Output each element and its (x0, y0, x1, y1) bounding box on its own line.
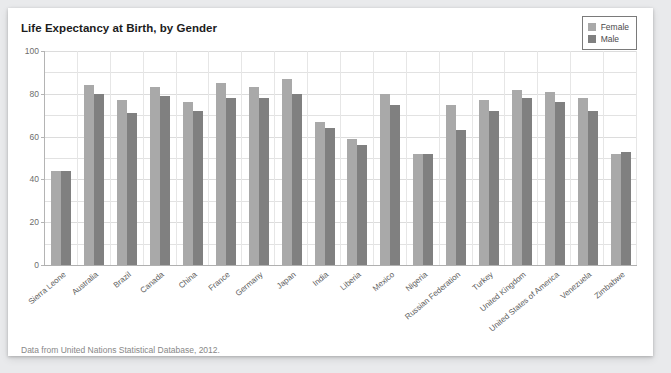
x-axis-label-cell: Mexico (374, 267, 407, 347)
legend-swatch-icon (588, 23, 596, 31)
bar-male[interactable] (127, 113, 137, 265)
x-axis-label-cell: India (308, 267, 341, 347)
y-axis-tick-mark (41, 265, 44, 266)
bar-male[interactable] (588, 111, 598, 265)
bar-male[interactable] (325, 128, 335, 265)
bar-female[interactable] (479, 100, 489, 265)
bar-group (177, 51, 210, 265)
bar-male[interactable] (226, 98, 236, 265)
legend-swatch-icon (588, 35, 596, 43)
bar-group (604, 51, 637, 265)
bar-female[interactable] (282, 79, 292, 265)
y-axis-tick-mark (41, 179, 44, 180)
x-axis-tick-label: India (311, 270, 330, 288)
bar-female[interactable] (380, 94, 390, 265)
bar-male[interactable] (522, 98, 532, 265)
y-axis-tick-label: 0 (13, 260, 39, 270)
bar-group (144, 51, 177, 265)
bar-male[interactable] (489, 111, 499, 265)
bar-male[interactable] (456, 130, 466, 265)
x-axis-label-cell: Venezuela (571, 267, 604, 347)
bar-male[interactable] (259, 98, 269, 265)
x-axis-tick-label: Nigeria (404, 270, 429, 293)
y-axis-tick-mark (41, 51, 44, 52)
bar-female[interactable] (347, 139, 357, 265)
legend-item[interactable]: Female (588, 21, 629, 33)
x-axis-label-cell: Brazil (111, 267, 144, 347)
chart-card: Life Expectancy at Birth, by Gender 1008… (8, 8, 653, 356)
y-axis-tick-mark (41, 94, 44, 95)
x-axis-label-cell: Canada (144, 267, 177, 347)
bar-male[interactable] (94, 94, 104, 265)
y-axis-tick-label: 80 (13, 89, 39, 99)
bar-female[interactable] (611, 154, 621, 265)
bar-female[interactable] (150, 87, 160, 265)
legend-label: Male (601, 34, 619, 44)
bar-female[interactable] (578, 98, 588, 265)
x-axis-tick-label: Brazil (112, 270, 133, 290)
chart-legend: FemaleMale (582, 16, 637, 50)
bar-male[interactable] (555, 102, 565, 265)
y-axis-labels: 100806040200 (8, 51, 39, 266)
bar-group (341, 51, 374, 265)
bar-group (538, 51, 571, 265)
bar-group (78, 51, 111, 265)
bar-series-container (45, 51, 637, 265)
bar-male[interactable] (621, 152, 631, 265)
bar-group (111, 51, 144, 265)
x-axis-label-cell: Zimbabwe (604, 267, 637, 347)
legend-label: Female (601, 22, 629, 32)
bar-male[interactable] (61, 171, 71, 265)
bar-group (209, 51, 242, 265)
x-axis-label-cell: Japan (275, 267, 308, 347)
x-axis-label-cell: Sierra Leone (45, 267, 78, 347)
bar-male[interactable] (390, 105, 400, 266)
bar-female[interactable] (249, 87, 259, 265)
bar-group (242, 51, 275, 265)
y-axis-tick-label: 40 (13, 174, 39, 184)
bar-female[interactable] (413, 154, 423, 265)
y-axis-tick-label: 100 (13, 46, 39, 56)
x-axis-label-cell: United States of America (538, 267, 571, 347)
bar-female[interactable] (512, 90, 522, 265)
bar-group (407, 51, 440, 265)
bar-group (374, 51, 407, 265)
x-axis-label-cell: France (209, 267, 242, 347)
x-axis-tick-label: Mexico (371, 270, 396, 293)
bar-female[interactable] (84, 85, 94, 265)
bar-group (505, 51, 538, 265)
bar-female[interactable] (183, 102, 193, 265)
legend-item[interactable]: Male (588, 33, 629, 45)
bar-female[interactable] (216, 83, 226, 265)
bar-female[interactable] (315, 122, 325, 265)
bar-male[interactable] (357, 145, 367, 265)
x-axis-tick-label: France (207, 270, 232, 293)
x-axis-line (44, 265, 637, 266)
bar-group (440, 51, 473, 265)
bar-female[interactable] (117, 100, 127, 265)
bar-male[interactable] (193, 111, 203, 265)
bar-female[interactable] (51, 171, 61, 265)
x-axis-label-cell: Russian Federation (440, 267, 473, 347)
x-axis-label-cell: China (177, 267, 210, 347)
bar-group (473, 51, 506, 265)
bar-male[interactable] (292, 94, 302, 265)
x-axis-label-cell: Liberia (341, 267, 374, 347)
y-axis-tick-label: 20 (13, 217, 39, 227)
bar-group (308, 51, 341, 265)
x-axis-label-cell: Germany (242, 267, 275, 347)
bar-group (275, 51, 308, 265)
bar-male[interactable] (160, 96, 170, 265)
chart-footnote: Data from United Nations Statistical Dat… (21, 345, 220, 355)
x-axis-tick-label: Turkey (471, 270, 495, 292)
x-axis-label-cell: Australia (78, 267, 111, 347)
x-axis-tick-label: Sierra Leone (26, 270, 67, 306)
bar-female[interactable] (545, 92, 555, 265)
y-axis-tick-label: 60 (13, 132, 39, 142)
page-title: Life Expectancy at Birth, by Gender (21, 22, 217, 34)
x-axis-tick-label: China (177, 270, 199, 290)
bar-group (45, 51, 78, 265)
bar-male[interactable] (423, 154, 433, 265)
bar-female[interactable] (446, 105, 456, 266)
x-axis-tick-label: Japan (275, 270, 297, 291)
